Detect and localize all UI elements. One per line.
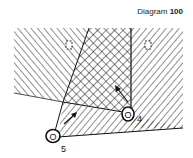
player-5-number: 5	[61, 144, 66, 154]
tactical-diagram: O 4 O 5	[0, 0, 193, 158]
svg-text:O: O	[124, 110, 131, 120]
dashed-marker-left	[66, 41, 72, 49]
svg-text:O: O	[49, 132, 56, 142]
dashed-marker-right	[145, 41, 151, 49]
player-4-number: 4	[137, 114, 142, 124]
right-hatched-zone	[131, 28, 183, 128]
